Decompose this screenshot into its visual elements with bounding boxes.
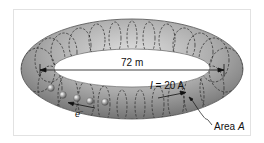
- area-symbol: A: [238, 121, 245, 132]
- area-label: Area A: [214, 122, 245, 132]
- current-label: I = 20 A: [150, 81, 184, 91]
- electron-label: e−: [75, 108, 84, 119]
- current-value: = 20 A: [153, 80, 184, 91]
- electron-charge: −: [80, 108, 84, 114]
- diameter-label: 72 m: [121, 58, 143, 68]
- torus: [21, 19, 243, 119]
- area-prefix: Area: [214, 121, 238, 132]
